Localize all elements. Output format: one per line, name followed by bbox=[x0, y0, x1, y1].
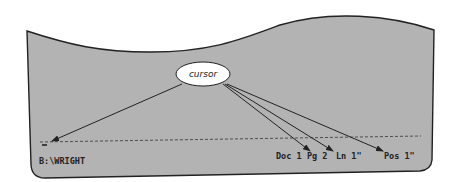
screen-area bbox=[27, 16, 434, 178]
status-path: B:\WRIGHT bbox=[39, 156, 85, 166]
status-page: Pg 2 bbox=[307, 151, 327, 161]
status-doc: Doc 1 bbox=[276, 151, 302, 161]
status-position: Pos 1" bbox=[384, 151, 415, 161]
diagram-canvas: cursor B:\WRIGHT Doc 1 Pg 2 Ln 1" Pos 1" bbox=[0, 0, 458, 182]
callout-label: cursor bbox=[189, 69, 219, 79]
status-line: Ln 1" bbox=[336, 151, 362, 161]
